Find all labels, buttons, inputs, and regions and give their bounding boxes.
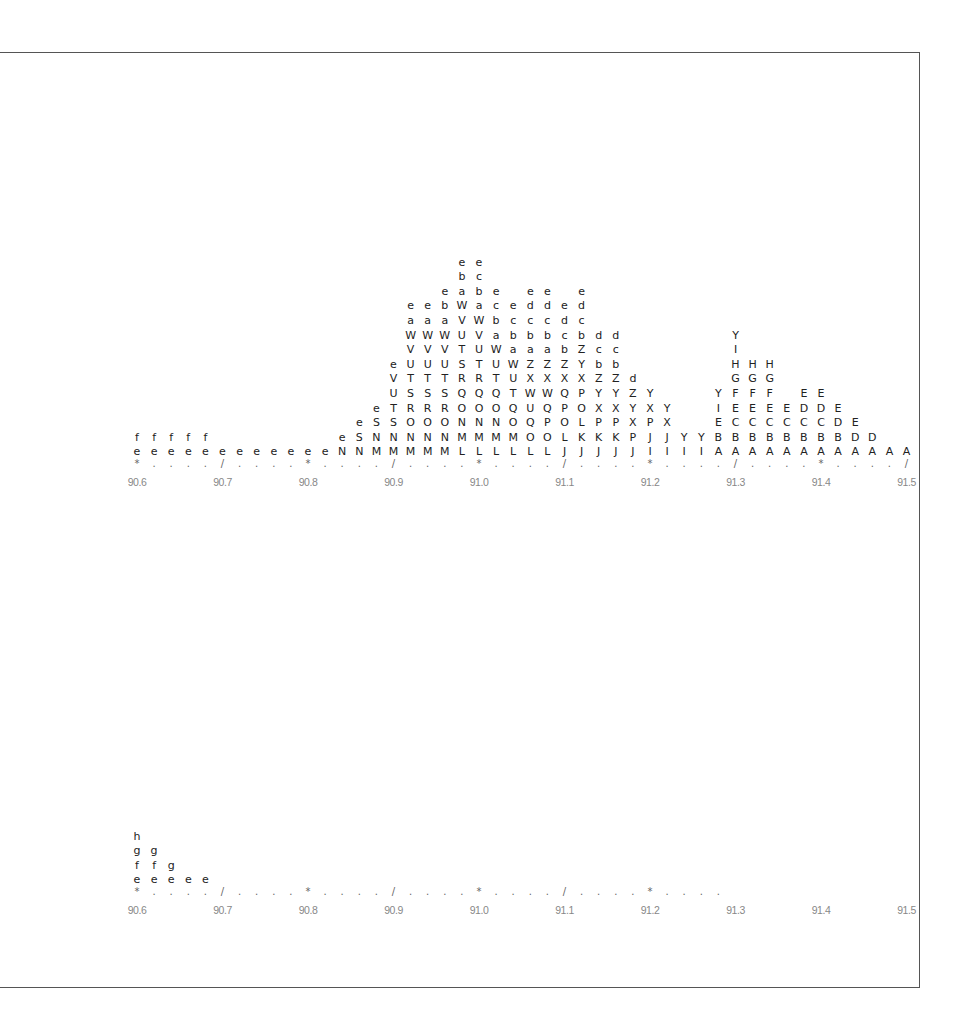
axis-tick-mark: . bbox=[267, 886, 281, 897]
x-tick-label: 91.1 bbox=[555, 904, 573, 916]
bin-symbol: f bbox=[147, 859, 161, 874]
axis-tick-mark: / bbox=[558, 886, 572, 897]
axis-tick-mark: . bbox=[609, 886, 623, 897]
bin-column: ge bbox=[164, 859, 178, 888]
bin-symbol: g bbox=[147, 844, 161, 859]
axis-tick-mark: * bbox=[130, 886, 144, 897]
axis-tick-mark: . bbox=[592, 886, 606, 897]
axis-tick-mark: . bbox=[352, 886, 366, 897]
bin-symbol: h bbox=[130, 830, 144, 845]
axis-tick-mark: * bbox=[643, 886, 657, 897]
axis-tick-mark: . bbox=[677, 886, 691, 897]
axis-tick-mark: . bbox=[489, 886, 503, 897]
bin-symbol: g bbox=[130, 844, 144, 859]
axis-tick-mark: . bbox=[181, 886, 195, 897]
axis-tick-mark: . bbox=[318, 886, 332, 897]
axis-tick-mark: . bbox=[250, 886, 264, 897]
axis-tick-mark: . bbox=[198, 886, 212, 897]
x-tick-label: 90.7 bbox=[213, 904, 231, 916]
axis-tick-mark: . bbox=[335, 886, 349, 897]
x-tick-label: 91.5 bbox=[897, 904, 915, 916]
axis-tick-mark: . bbox=[455, 886, 469, 897]
x-tick-label: 90.6 bbox=[128, 904, 146, 916]
axis-tick-mark: / bbox=[387, 886, 401, 897]
axis-tick-mark: / bbox=[216, 886, 230, 897]
x-tick-label: 91.3 bbox=[726, 904, 744, 916]
axis-tick-mark: . bbox=[164, 886, 178, 897]
axis-tick-mark: * bbox=[301, 886, 315, 897]
axis-tick-mark: . bbox=[711, 886, 725, 897]
axis-tick-mark: . bbox=[147, 886, 161, 897]
axis-tick-mark: . bbox=[626, 886, 640, 897]
axis-tick-mark: . bbox=[284, 886, 298, 897]
axis-tick-mark: . bbox=[694, 886, 708, 897]
axis-tick-mark: . bbox=[523, 886, 537, 897]
bin-symbol: g bbox=[164, 859, 178, 874]
x-tick-label: 91.2 bbox=[641, 904, 659, 916]
axis-tick-mark: . bbox=[421, 886, 435, 897]
axis-tick-mark: . bbox=[438, 886, 452, 897]
x-tick-label: 90.9 bbox=[384, 904, 402, 916]
axis-tick-mark: . bbox=[369, 886, 383, 897]
x-tick-label: 90.8 bbox=[299, 904, 317, 916]
axis-tick-mark: . bbox=[540, 886, 554, 897]
x-tick-label: 91.0 bbox=[470, 904, 488, 916]
bin-column: gfe bbox=[147, 844, 161, 888]
x-tick-label: 91.4 bbox=[812, 904, 830, 916]
bottom-distribution-panel: hgfegfegeee*..../....*..../....*..../...… bbox=[0, 0, 972, 1016]
axis-tick-mark: . bbox=[660, 886, 674, 897]
axis-tick-mark: . bbox=[506, 886, 520, 897]
axis-tick-mark: . bbox=[233, 886, 247, 897]
axis-tick-mark: . bbox=[575, 886, 589, 897]
bin-symbol: f bbox=[130, 859, 144, 874]
bin-column: hgfe bbox=[130, 830, 144, 888]
axis-tick-mark: * bbox=[472, 886, 486, 897]
axis-tick-mark: . bbox=[404, 886, 418, 897]
